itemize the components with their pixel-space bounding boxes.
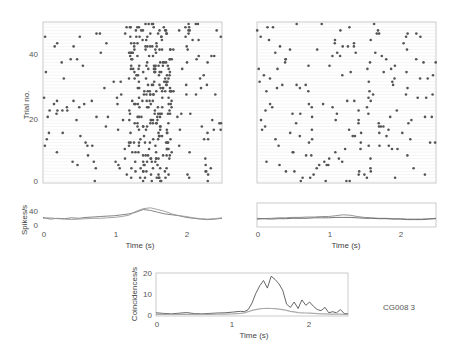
spike-mark <box>149 141 152 144</box>
spike-mark <box>429 141 432 144</box>
spike-mark <box>142 161 145 164</box>
coincidences-xtick-0: 0 <box>155 320 160 329</box>
spike-mark <box>158 29 161 32</box>
spike-mark <box>144 45 147 48</box>
spike-mark <box>138 36 141 39</box>
spike-mark <box>284 61 287 64</box>
rate-left-xtick-0: 0 <box>42 230 47 239</box>
spike-mark <box>274 138 277 141</box>
spike-mark <box>100 52 103 55</box>
spike-mark <box>334 39 337 42</box>
spike-mark <box>61 132 64 135</box>
spike-mark <box>138 80 141 83</box>
spike-mark <box>163 80 166 83</box>
spike-mark <box>138 106 141 109</box>
spike-mark <box>305 154 308 157</box>
spike-mark <box>117 128 120 131</box>
spike-mark <box>220 122 223 125</box>
spike-mark <box>339 55 342 58</box>
spike-mark <box>304 84 307 87</box>
spike-mark <box>144 177 147 180</box>
spike-mark <box>144 154 147 157</box>
spike-mark <box>166 132 169 135</box>
spike-mark <box>158 177 161 180</box>
spike-mark <box>341 45 344 48</box>
spike-mark <box>311 138 314 141</box>
spike-mark <box>133 48 136 51</box>
spike-mark <box>133 103 136 106</box>
rate-right-xtick-0: 0 <box>256 230 261 239</box>
spike-mark <box>150 103 153 106</box>
spike-mark <box>391 80 394 83</box>
spike-mark <box>204 157 207 160</box>
spike-mark <box>341 161 344 164</box>
spike-mark <box>138 128 141 131</box>
coincidences-lines <box>156 276 348 314</box>
raster-right-spikes <box>256 23 437 183</box>
spike-mark <box>310 154 313 157</box>
spike-mark <box>155 151 158 154</box>
spike-mark <box>152 167 155 170</box>
spike-mark <box>75 119 78 122</box>
spike-mark <box>334 42 337 45</box>
spike-mark <box>142 164 145 167</box>
spike-mark <box>164 77 167 80</box>
spike-mark <box>187 29 190 32</box>
spike-mark <box>347 45 350 48</box>
spike-mark <box>165 61 168 64</box>
spike-mark <box>328 64 331 67</box>
spike-mark <box>204 164 207 167</box>
spike-mark <box>164 170 167 173</box>
spike-mark <box>155 90 158 93</box>
spike-mark <box>129 112 132 115</box>
spike-mark <box>431 116 434 119</box>
spike-mark <box>153 112 156 115</box>
spike-mark <box>169 87 172 90</box>
spike-mark <box>142 154 145 157</box>
spike-mark <box>44 145 47 148</box>
spike-mark <box>158 74 161 77</box>
spike-mark <box>213 55 216 58</box>
spike-mark <box>378 125 381 128</box>
spike-mark <box>95 116 98 119</box>
spike-mark <box>130 64 133 67</box>
spike-mark <box>117 164 120 167</box>
spike-mark <box>155 157 158 160</box>
spike-mark <box>425 96 428 99</box>
spike-mark <box>331 106 334 109</box>
spike-mark <box>153 68 156 71</box>
rate-left-ylabel: Spikes/s <box>20 205 29 235</box>
spike-mark <box>53 103 56 106</box>
spike-mark <box>164 29 167 32</box>
spike-mark <box>416 96 419 99</box>
spike-mark <box>137 68 140 71</box>
spike-mark <box>291 151 294 154</box>
spike-mark <box>150 173 153 176</box>
spike-mark <box>185 93 188 96</box>
spike-mark <box>164 90 167 93</box>
spike-mark <box>269 77 272 80</box>
spike-mark <box>135 74 138 77</box>
spike-mark <box>130 167 133 170</box>
spike-mark <box>86 145 89 148</box>
spike-mark <box>357 173 360 176</box>
coincidences-series-expected <box>156 308 348 314</box>
spike-mark <box>138 116 141 119</box>
spike-mark <box>142 125 145 128</box>
spike-mark <box>299 87 302 90</box>
spike-mark <box>180 112 183 115</box>
spike-mark <box>348 180 351 183</box>
spike-mark <box>378 145 381 148</box>
spike-mark <box>126 173 129 176</box>
spike-mark <box>367 96 370 99</box>
spike-mark <box>166 148 169 151</box>
spike-mark <box>132 68 135 71</box>
spike-mark <box>130 177 133 180</box>
spike-mark <box>357 122 360 125</box>
spike-mark <box>390 68 393 71</box>
spike-mark <box>142 71 145 74</box>
spike-mark <box>136 55 139 58</box>
rate-left-xtick-1: 1 <box>114 230 119 239</box>
spike-mark <box>157 138 160 141</box>
spike-mark <box>320 23 323 26</box>
